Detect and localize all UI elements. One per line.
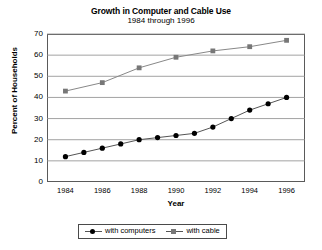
x-tick-label: 1988 (119, 187, 159, 195)
data-point (155, 135, 160, 140)
y-axis-title: Percent of Households (10, 41, 19, 141)
y-tick-label: 0 (3, 178, 43, 186)
data-point (63, 89, 68, 94)
data-point (192, 131, 197, 136)
data-point (266, 101, 271, 106)
series-line-with-computers (65, 97, 286, 156)
chart-title: Growth in Computer and Cable Use (0, 6, 322, 16)
data-point (247, 44, 252, 49)
x-axis-title: Year (47, 199, 305, 208)
data-point (137, 137, 142, 142)
chart-container: Growth in Computer and Cable Use 1984 th… (0, 0, 322, 250)
series-line-with-cable (65, 40, 286, 91)
data-point (137, 65, 142, 70)
data-point (247, 108, 252, 113)
legend-label-with-computers: with computers (105, 227, 155, 235)
data-point (100, 146, 105, 151)
data-point (63, 154, 68, 159)
gridlines (47, 34, 305, 161)
chart-subtitle: 1984 through 1996 (0, 16, 322, 26)
x-tick-label: 1994 (230, 187, 270, 195)
y-tick-label: 70 (3, 30, 43, 38)
legend-label-with-cable: with cable (186, 227, 219, 235)
x-tick-label: 1992 (193, 187, 233, 195)
y-tick-label: 10 (3, 157, 43, 165)
x-tick-label: 1990 (156, 187, 196, 195)
data-point (210, 124, 215, 129)
data-point (174, 55, 179, 60)
x-tick-label: 1986 (82, 187, 122, 195)
x-tick-label: 1996 (267, 187, 307, 195)
data-point (118, 141, 123, 146)
legend-marker-circle-icon (85, 228, 102, 235)
data-series-layer (63, 38, 289, 159)
data-point (284, 95, 289, 100)
chart-legend: with computers with cable (78, 224, 227, 239)
data-point (284, 38, 289, 43)
data-point (210, 49, 215, 54)
legend-item-with-computers[interactable]: with computers (85, 227, 155, 235)
data-point (81, 150, 86, 155)
legend-item-with-cable[interactable]: with cable (166, 227, 219, 235)
data-point (173, 133, 178, 138)
legend-marker-square-icon (166, 228, 183, 235)
x-tick-label: 1984 (45, 187, 85, 195)
plot-canvas (47, 34, 305, 182)
data-point (100, 80, 105, 85)
data-point (229, 116, 234, 121)
